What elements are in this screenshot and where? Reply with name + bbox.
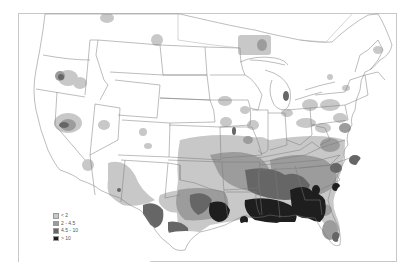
legend-swatch [53, 236, 59, 242]
legend-swatch [53, 213, 59, 219]
legend-label: < 2 [61, 213, 68, 218]
legend-swatch [53, 228, 59, 234]
map-legend: < 2 2 - 4.5 4.5 - 10 > 10 [53, 212, 78, 242]
legend-item: 4.5 - 10 [53, 227, 78, 235]
legend-swatch [53, 221, 59, 227]
legend-item: > 10 [53, 235, 78, 243]
legend-label: > 10 [61, 236, 71, 241]
legend-label: 4.5 - 10 [61, 228, 78, 233]
legend-item: 2 - 4.5 [53, 220, 78, 228]
legend-item: < 2 [53, 212, 78, 220]
legend-label: 2 - 4.5 [61, 221, 75, 226]
